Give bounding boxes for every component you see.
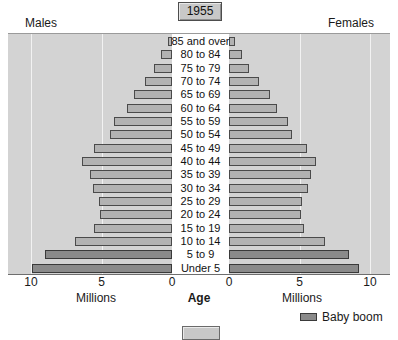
- female-bar[interactable]: [229, 237, 325, 246]
- year-badge-label: 1955: [187, 4, 214, 18]
- females-heading: Females: [328, 16, 374, 30]
- age-group-label: 45 to 49: [172, 142, 229, 155]
- age-group-label: 15 to 19: [172, 222, 229, 235]
- left-axis-tick: 5: [98, 275, 105, 289]
- male-bar[interactable]: [134, 90, 172, 99]
- legend-label-baby-boom: Baby boom: [322, 310, 383, 324]
- age-group-label: 50 to 54: [172, 128, 229, 141]
- male-bar[interactable]: [90, 170, 172, 179]
- year-badge[interactable]: 1955: [178, 2, 222, 21]
- female-bar[interactable]: [229, 50, 242, 59]
- plot-area: 85 and over80 to 8475 to 7970 to 7465 to…: [8, 33, 390, 275]
- male-bar[interactable]: [75, 237, 172, 246]
- bottom-slider-control[interactable]: [182, 326, 220, 340]
- female-bar[interactable]: [229, 157, 316, 166]
- female-bar[interactable]: [229, 170, 311, 179]
- female-bar[interactable]: [229, 64, 249, 73]
- female-bar[interactable]: [229, 197, 302, 206]
- female-bar[interactable]: [229, 130, 292, 139]
- age-group-label: 20 to 24: [172, 208, 229, 221]
- right-axis-tick: 5: [296, 275, 303, 289]
- age-group-label: 70 to 74: [172, 75, 229, 88]
- age-group-label: 35 to 39: [172, 168, 229, 181]
- male-bar[interactable]: [161, 50, 172, 59]
- right-axis-tick: 10: [363, 275, 376, 289]
- female-bar[interactable]: [229, 264, 359, 273]
- age-group-label: 25 to 29: [172, 195, 229, 208]
- female-bar[interactable]: [229, 104, 277, 113]
- male-bar[interactable]: [114, 117, 172, 126]
- female-bar[interactable]: [229, 77, 259, 86]
- female-bar[interactable]: [229, 117, 288, 126]
- males-heading: Males: [25, 16, 57, 30]
- female-bar[interactable]: [229, 144, 307, 153]
- male-bar[interactable]: [93, 184, 172, 193]
- legend: Baby boom: [300, 310, 383, 324]
- pyramid-row: Under 5: [8, 261, 390, 277]
- left-axis-title: Millions: [76, 291, 116, 305]
- left-axis-tick: 0: [169, 275, 176, 289]
- age-group-label: 30 to 34: [172, 182, 229, 195]
- age-group-label: 85 and over: [164, 35, 237, 48]
- male-bar[interactable]: [82, 157, 172, 166]
- age-group-label: 5 to 9: [172, 248, 229, 261]
- male-bar[interactable]: [94, 224, 172, 233]
- left-axis-tick: 10: [24, 275, 37, 289]
- female-bar[interactable]: [229, 184, 308, 193]
- baby-boom-swatch-icon: [300, 313, 317, 321]
- age-group-label: 40 to 44: [172, 155, 229, 168]
- female-bar[interactable]: [229, 224, 304, 233]
- age-group-label: 80 to 84: [172, 48, 229, 61]
- right-axis-title: Millions: [282, 291, 322, 305]
- center-axis-title: Age: [188, 291, 211, 305]
- male-bar[interactable]: [145, 77, 172, 86]
- female-bar[interactable]: [229, 90, 270, 99]
- age-group-label: 65 to 69: [172, 88, 229, 101]
- right-axis-tick: 0: [226, 275, 233, 289]
- male-bar[interactable]: [127, 104, 172, 113]
- male-bar[interactable]: [110, 130, 172, 139]
- age-group-label: 10 to 14: [172, 235, 229, 248]
- age-group-label: Under 5: [172, 262, 229, 275]
- male-bar[interactable]: [154, 64, 172, 73]
- age-group-label: 75 to 79: [172, 62, 229, 75]
- age-group-label: 60 to 64: [172, 102, 229, 115]
- male-bar[interactable]: [32, 264, 172, 273]
- male-bar[interactable]: [45, 250, 172, 259]
- male-bar[interactable]: [94, 144, 172, 153]
- female-bar[interactable]: [229, 250, 349, 259]
- female-bar[interactable]: [229, 210, 301, 219]
- male-bar[interactable]: [100, 210, 172, 219]
- male-bar[interactable]: [99, 197, 172, 206]
- age-group-label: 55 to 59: [172, 115, 229, 128]
